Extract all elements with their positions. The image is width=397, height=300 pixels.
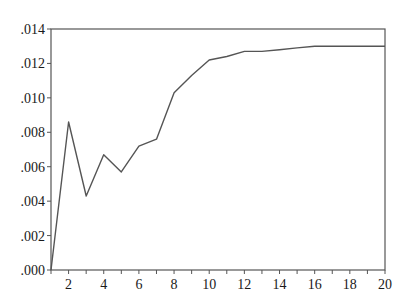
y-tick-label: .000 [21,263,46,278]
x-axis: 2468101214161820 [51,270,392,292]
x-tick-label: 12 [237,277,251,292]
y-tick-label: .008 [21,125,46,140]
x-tick-label: 16 [308,277,322,292]
data-line [51,46,385,270]
x-tick-label: 18 [343,277,357,292]
x-tick-label: 2 [65,277,72,292]
y-tick-label: .012 [21,56,46,71]
x-tick-label: 20 [378,277,392,292]
x-tick-label: 10 [202,277,216,292]
plot-frame [51,29,385,270]
x-tick-label: 6 [135,277,142,292]
y-axis: .000.002.004.006.008.010.012.014 [21,22,52,278]
y-tick-label: .002 [21,229,46,244]
y-tick-label: .010 [21,91,46,106]
y-tick-label: .006 [21,160,46,175]
y-tick-label: .004 [21,194,46,209]
x-tick-label: 4 [100,277,107,292]
y-tick-label: .014 [21,22,46,37]
x-tick-label: 8 [171,277,178,292]
line-chart: .000.002.004.006.008.010.012.014 2468101… [0,0,397,300]
x-tick-label: 14 [273,277,287,292]
